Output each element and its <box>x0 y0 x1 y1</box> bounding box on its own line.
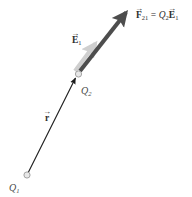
vector-hat-icon: → <box>135 5 143 13</box>
charge-label-q1: Q1 <box>9 183 19 193</box>
charge-subscript-q2: 2 <box>88 90 91 97</box>
vector-hat-icon: → <box>43 108 51 116</box>
vector-diagram-svg <box>0 0 192 197</box>
F21-vector-arrow <box>80 13 126 72</box>
force-equation-label: →F21=Q2→E1 <box>136 11 178 21</box>
charge-marker-q1 <box>24 172 30 178</box>
equals-operator: = <box>148 10 158 20</box>
r-vector-arrow <box>27 78 76 175</box>
rhs-field-subscript: 1 <box>175 14 178 21</box>
r-symbol: →r <box>45 114 49 124</box>
charge-scalar-letter: Q <box>159 10 166 20</box>
separation-vector-label: →r <box>45 114 49 124</box>
vector-hat-icon: → <box>168 5 176 13</box>
e-field-subscript: 1 <box>78 39 81 46</box>
charge-subscript-q1: 1 <box>16 187 19 194</box>
e-field-vector-label: →E1 <box>72 36 82 46</box>
force-subscript: 21 <box>142 14 149 21</box>
vector-hat-icon: → <box>71 30 79 38</box>
charge-marker-q2 <box>75 71 81 77</box>
charge-label-q2: Q2 <box>81 86 91 96</box>
force-symbol: →F <box>136 11 142 21</box>
physics-diagram-canvas: →E1 →F21=Q2→E1 →r Q2 Q1 <box>0 0 192 197</box>
